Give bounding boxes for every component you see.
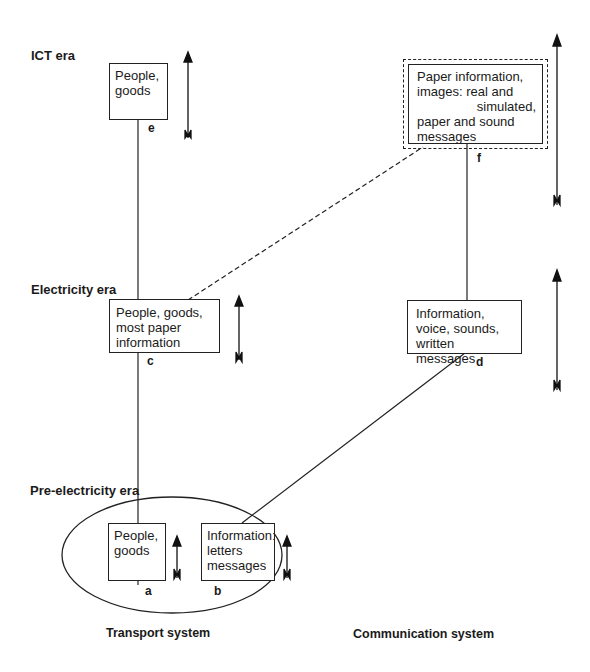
- node-label-b: b: [214, 584, 221, 598]
- node-label-e: e: [148, 121, 155, 135]
- node-d-information-voice: Information, voice, sounds, written mess…: [407, 300, 522, 354]
- era-label-pre-electricity: Pre-electricity era: [30, 483, 139, 498]
- axis-label-communication: Communication system: [353, 627, 494, 641]
- node-label-a: a: [145, 584, 152, 598]
- axis-label-transport: Transport system: [106, 626, 210, 640]
- era-label-ict: ICT era: [31, 48, 75, 63]
- node-label-f: f: [477, 151, 481, 165]
- node-c-people-goods-paper: People, goods, most paper information: [109, 299, 220, 353]
- node-label-d: d: [476, 355, 483, 369]
- era-label-electricity: Electricity era: [31, 282, 116, 297]
- node-b-information-letters: Information: letters messages: [201, 523, 275, 581]
- node-e-people-goods: People, goods: [109, 63, 168, 120]
- node-a-people-goods: People, goods: [108, 523, 166, 581]
- node-f-paper-information: Paper information, images: real and simu…: [408, 64, 543, 144]
- node-label-c: c: [147, 354, 154, 368]
